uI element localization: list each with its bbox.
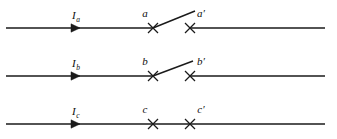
prime-mark-glyph: ′ [202,103,205,115]
ray-direction-arrowhead [71,24,80,32]
ray-intensity-subscript: b [76,63,80,72]
row-b: Ibbb′ [6,55,325,81]
row-a: Iaaa′ [6,7,325,33]
point-label: a [142,7,148,19]
prime-mark-glyph: ′ [203,7,206,19]
ray-direction-arrowhead [71,120,80,128]
ray-intensity-label: Ia [71,9,80,24]
ray-intensity-label: Ic [71,105,80,120]
deflected-ray-segment [153,11,195,28]
prime-mark-glyph: ′ [203,55,206,67]
row-c: Iccc′ [6,103,325,129]
prime-point-label: b′ [197,55,206,67]
ray-intensity-label: Ib [71,57,80,72]
ray-intensity-subscript: c [76,111,80,120]
diagram-canvas: Iaaa′Ibbb′Iccc′ [0,0,337,139]
point-label: b [142,55,148,67]
prime-point-label: c′ [197,103,205,115]
point-label: c [143,103,148,115]
ray-intensity-subscript: a [76,15,80,24]
prime-point-label: a′ [197,7,206,19]
ray-diagram-figure: Iaaa′Ibbb′Iccc′ [0,0,337,139]
ray-direction-arrowhead [71,72,80,80]
